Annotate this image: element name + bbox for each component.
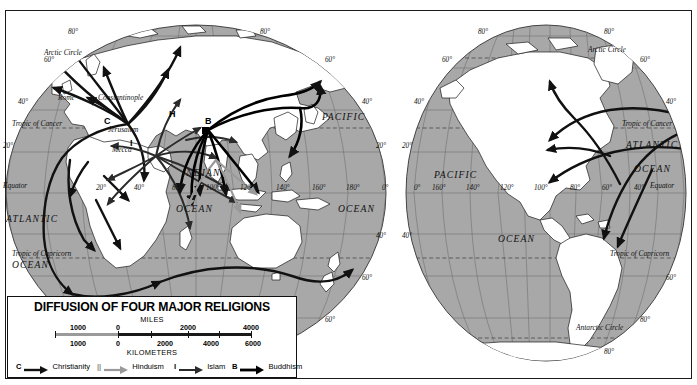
lat-label: 20° (3, 142, 13, 150)
lon-label: 160° (432, 184, 446, 192)
lat-label: 60° (325, 56, 335, 64)
km-tick: 2000 (157, 339, 173, 348)
scale-bar (55, 333, 251, 336)
equator-label: Equator (2, 181, 27, 190)
ocean-label: INDIAN (181, 167, 221, 178)
legend-key-buddhism: B Buddhism (232, 359, 302, 373)
tropic-of-cancer-label: Tropic of Cancer (12, 119, 62, 128)
miles-tick-labels: 1000 0 2000 4000 (8, 323, 296, 333)
lon-label: 180° (346, 184, 360, 192)
legend-key-islam: I Islam (174, 359, 225, 373)
city-label-rome: Rome (57, 93, 76, 102)
lon-label: 160° (312, 184, 326, 192)
lon-label: 0° (382, 184, 389, 192)
lat-label: 80° (260, 28, 270, 36)
lon-label: 120° (500, 184, 514, 192)
scale-unit-kilometers: KILOMETERS (8, 348, 296, 357)
city-label-jerusalem: Jerusalem (108, 125, 139, 134)
buddhism-arrow-icon (239, 361, 265, 371)
lat-label: 60° (640, 56, 650, 64)
ocean-label: PACIFIC (433, 169, 477, 180)
miles-tick: 1000 (70, 323, 86, 332)
legend-key-hinduism: || Hinduism (97, 359, 164, 373)
legend-label-buddhism: Buddhism (268, 362, 302, 371)
lat-label: 60° (362, 274, 372, 282)
lat-label: 40° (414, 98, 424, 106)
lat-label: 80° (604, 28, 614, 36)
christianity-arrow-icon (23, 361, 49, 371)
city-label-mecca: Mecca (111, 145, 132, 154)
km-tick: 0 (116, 339, 120, 348)
lon-label: 60° (602, 184, 612, 192)
lat-label: 60° (442, 56, 452, 64)
lat-label: 80° (478, 28, 488, 36)
legend-symbol-christianity: C (16, 362, 21, 371)
ocean-label: ATLANTIC (5, 213, 58, 224)
lat-label: 40° (666, 98, 676, 106)
ocean-label: OCEAN (498, 233, 535, 244)
religion-marker-islam: I (130, 138, 133, 148)
tropic-of-capricorn-label: Tropic of Capricorn (610, 249, 670, 258)
legend-symbol-hinduism: || (97, 362, 101, 371)
tropic-of-cancer-label: Tropic of Cancer (622, 119, 672, 128)
ocean-label: PACIFIC (321, 111, 365, 122)
arctic-circle-label: Arctic Circle (587, 45, 627, 54)
lon-label: 40° (134, 184, 144, 192)
scale-bar-group: MILES 1000 0 2000 4000 1000 0 2000 (8, 315, 296, 355)
legend-key-christianity: C Christianity (16, 359, 90, 373)
lon-label: 100° (534, 184, 548, 192)
lat-label: 40° (376, 232, 386, 240)
hinduism-arrow-icon (103, 361, 129, 371)
legend-keys: C Christianity || Hindu (8, 359, 296, 373)
lat-label: 80° (68, 28, 78, 36)
lat-label: 80° (640, 316, 650, 324)
lat-label: 20° (376, 142, 386, 150)
buddhism-origin-marker (202, 127, 209, 134)
lat-label: 60° (44, 56, 54, 64)
lon-label: 100° (206, 184, 220, 192)
city-label-constantinople: Constantinople (98, 93, 144, 102)
legend-label-christianity: Christianity (52, 362, 90, 371)
km-tick: 4000 (203, 339, 219, 348)
map-screenshot: 80° 80° 60° 60° 40° 40° 20° 20° 40° 60° … (0, 0, 697, 385)
ocean-label: OCEAN (634, 163, 671, 174)
lat-label: 60° (325, 316, 335, 324)
equator-label: Equator (649, 181, 674, 190)
religion-marker-hinduism: H (169, 109, 176, 119)
lon-label: 120° (240, 184, 254, 192)
map-legend: DIFFUSION OF FOUR MAJOR RELIGIONS MILES … (7, 296, 297, 378)
legend-symbol-islam: I (174, 362, 176, 371)
lon-label: 140° (466, 184, 480, 192)
lat-label: 60° (666, 274, 676, 282)
lon-label: 80° (570, 184, 580, 192)
lon-label: 140° (276, 184, 290, 192)
arctic-circle-label: Arctic Circle (43, 48, 83, 57)
islam-arrow-icon (178, 361, 204, 371)
right-hemisphere: 80° 80° 60° 60° 40° 40° 20° 40° 60° 80° … (402, 25, 694, 362)
ocean-label: ATLANTIC (625, 139, 678, 150)
lon-label: 0° (414, 184, 421, 192)
legend-symbol-buddhism: B (232, 362, 237, 371)
lon-label: 20° (96, 184, 106, 192)
religion-marker-christianity: C (104, 116, 111, 126)
legend-title: DIFFUSION OF FOUR MAJOR RELIGIONS (12, 300, 291, 314)
antarctic-circle-label: Antarctic Circle (575, 323, 624, 332)
religion-marker-buddhism: B (205, 116, 212, 126)
lon-label: 40° (634, 184, 644, 192)
km-tick: 1000 (70, 339, 86, 348)
legend-label-islam: Islam (207, 362, 225, 371)
ocean-label: OCEAN (338, 203, 375, 214)
ocean-label: OCEAN (12, 259, 49, 270)
lon-label: 80° (172, 184, 182, 192)
ocean-label: OCEAN (176, 203, 213, 214)
lat-label: 80° (604, 348, 614, 356)
km-tick: 6000 (245, 339, 261, 348)
lat-label: 20° (402, 142, 412, 150)
lat-label: 40° (402, 232, 412, 240)
legend-label-hinduism: Hinduism (132, 362, 164, 371)
lat-label: 40° (362, 98, 372, 106)
tropic-of-capricorn-label: Tropic of Capricorn (12, 249, 72, 258)
lat-label: 40° (18, 98, 28, 106)
